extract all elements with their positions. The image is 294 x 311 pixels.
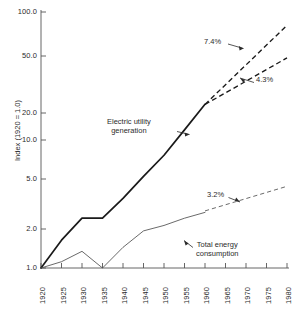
y-tick-label-20: 20.0: [0, 108, 37, 117]
x-tick-label-1940: 1940: [120, 287, 129, 304]
x-tick-label-1975: 1975: [264, 287, 273, 304]
series-total-energy-consumption: [41, 212, 205, 268]
x-tick-label-1970: 1970: [243, 287, 252, 304]
y-tick-label-50: 50.0: [0, 51, 37, 60]
y-tick-label-2: 2.0: [0, 224, 37, 233]
y-tick-label-1: 1.0: [0, 263, 37, 272]
x-axis-ticks: [41, 263, 287, 268]
x-tick-label-1965: 1965: [223, 287, 232, 304]
annotation-electric-utility-generation: Electric utility generation: [107, 118, 151, 136]
x-tick-label-1945: 1945: [141, 287, 150, 304]
x-tick-label-1980: 1980: [284, 287, 293, 304]
x-tick-label-1930: 1930: [79, 287, 88, 304]
plot-area: [0, 0, 294, 311]
y-tick-label-100: 100.0: [0, 7, 37, 16]
annotation-growth-rate-7-4: 7.4%: [204, 38, 221, 47]
x-tick-label-1925: 1925: [59, 287, 68, 304]
annotation-growth-rate-4-3: 4.3%: [256, 76, 273, 85]
annotation-growth-rate-3-2: 3.2%: [207, 191, 224, 200]
x-tick-label-1955: 1955: [182, 287, 191, 304]
x-tick-label-1950: 1950: [161, 287, 170, 304]
x-tick-label-1935: 1935: [100, 287, 109, 304]
annotation-total-energy-consumption: Total energy consumption: [196, 241, 239, 259]
electric-label-line-2: generation: [107, 127, 151, 136]
y-tick-label-5: 5.0: [0, 174, 37, 183]
total-energy-label-line-2: consumption: [196, 250, 239, 259]
y-tick-label-10: 10.0: [0, 135, 37, 144]
x-tick-label-1960: 1960: [202, 287, 211, 304]
axis-lines: [41, 10, 289, 268]
y-axis-title: Index (1920 = 1.0): [13, 86, 22, 176]
y-axis-ticks: [41, 12, 46, 268]
chart-figure: Index (1920 = 1.0) 100.0 50.0 20.0 10.0 …: [0, 0, 294, 311]
series-projection-low-4-3: [205, 58, 287, 105]
x-tick-label-1920: 1920: [38, 287, 47, 304]
